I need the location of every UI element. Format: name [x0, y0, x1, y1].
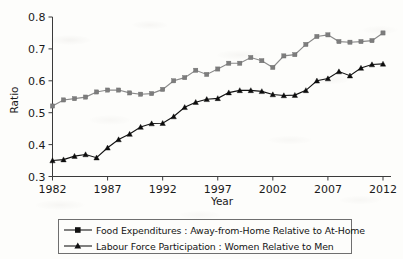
- chart-figure: 0.30.40.50.60.70.8 198219871992199720022…: [0, 0, 403, 259]
- data-point: [72, 97, 76, 101]
- data-point: [336, 69, 341, 74]
- data-point: [105, 88, 109, 92]
- data-point: [61, 98, 65, 102]
- data-point: [282, 54, 286, 58]
- data-point: [139, 92, 143, 96]
- data-point: [94, 90, 98, 94]
- data-point: [304, 42, 308, 46]
- data-point: [205, 72, 209, 76]
- data-point: [83, 95, 87, 99]
- data-point: [326, 33, 330, 37]
- data-point: [116, 137, 121, 142]
- data-point: [271, 65, 275, 69]
- data-point: [50, 104, 54, 108]
- legend-item-labour-force: Labour Force Participation : Women Relat…: [63, 238, 351, 254]
- data-point: [183, 76, 187, 80]
- series-line-2: [53, 64, 384, 161]
- data-point: [337, 39, 341, 43]
- data-point: [127, 131, 132, 136]
- data-point: [194, 68, 198, 72]
- legend-label-food-expenditures: Food Expenditures : Away-from-Home Relat…: [96, 225, 365, 236]
- data-point: [348, 40, 352, 44]
- x-tick-label: 2007: [314, 183, 342, 196]
- series-markers: [50, 31, 386, 163]
- y-tick-label: 0.7: [28, 43, 46, 56]
- data-point: [293, 53, 297, 57]
- data-point: [182, 105, 187, 110]
- y-axis-ticks: 0.30.40.50.60.70.8: [28, 11, 53, 184]
- x-axis-ticks: 1982198719921997200220072012: [39, 177, 398, 196]
- data-point: [117, 88, 121, 92]
- x-tick-label: 1997: [204, 183, 232, 196]
- x-tick-label: 1982: [39, 183, 67, 196]
- data-point: [150, 91, 154, 95]
- legend-item-food-expenditures: Food Expenditures : Away-from-Home Relat…: [63, 222, 351, 238]
- data-point: [325, 76, 330, 81]
- data-point: [216, 67, 220, 71]
- y-tick-label: 0.5: [28, 107, 46, 120]
- data-point: [260, 59, 264, 63]
- y-tick-label: 0.6: [28, 75, 46, 88]
- legend-key-square-icon: [63, 224, 93, 236]
- chart-legend: Food Expenditures : Away-from-Home Relat…: [58, 219, 352, 254]
- y-axis-title: Ratio: [8, 87, 20, 114]
- data-point: [172, 79, 176, 83]
- chart-plot-area: 0.30.40.50.60.70.8 198219871992199720022…: [0, 0, 403, 219]
- data-point: [359, 39, 363, 43]
- data-point: [238, 61, 242, 65]
- x-tick-label: 1992: [149, 183, 177, 196]
- legend-label-labour-force: Labour Force Participation : Women Relat…: [96, 241, 334, 252]
- y-tick-label: 0.4: [28, 139, 46, 152]
- legend-key-triangle-icon: [63, 240, 93, 252]
- data-point: [249, 55, 253, 59]
- x-tick-label: 1987: [94, 183, 122, 196]
- y-tick-label: 0.8: [28, 11, 46, 24]
- data-point: [128, 91, 132, 95]
- x-axis-title: Year: [210, 195, 234, 207]
- data-point: [315, 34, 319, 38]
- x-tick-label: 2012: [369, 183, 397, 196]
- data-point: [370, 39, 374, 43]
- x-tick-label: 2002: [259, 183, 287, 196]
- data-point: [227, 61, 231, 65]
- data-point: [161, 87, 165, 91]
- data-point: [381, 31, 385, 35]
